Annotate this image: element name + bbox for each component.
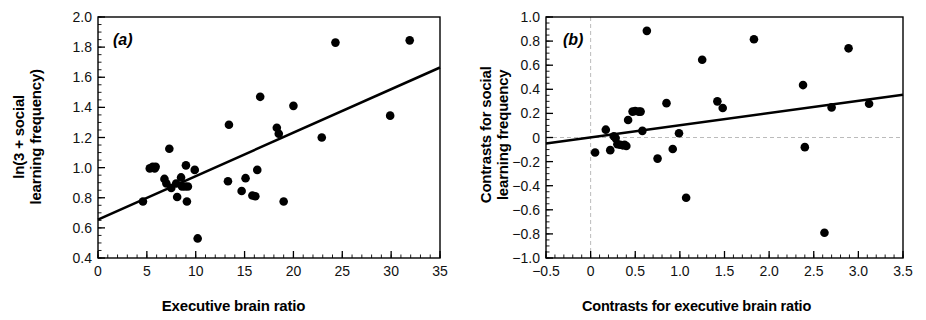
minor-ticks: [98, 17, 440, 258]
data-point: [865, 99, 874, 108]
panel-b-y-axis-title-line1: Contrasts for social: [478, 45, 495, 225]
data-point: [801, 143, 810, 152]
data-point: [662, 99, 671, 108]
data-point: [820, 228, 829, 237]
data-point: [237, 187, 246, 196]
x-tick-label: 3.5: [893, 263, 912, 279]
panel-b-scatter: (b) Contrasts for executive brain ratio …: [463, 0, 926, 320]
data-point: [184, 182, 193, 191]
data-point: [139, 197, 148, 206]
major-ticks: [98, 17, 440, 258]
data-point: [251, 192, 260, 201]
data-point: [591, 148, 600, 157]
regression-line: [546, 95, 903, 144]
y-tick-label: 0.6: [502, 57, 540, 73]
data-point: [643, 27, 652, 36]
x-tick-label: 2.5: [804, 263, 823, 279]
data-point: [675, 129, 684, 138]
data-point: [601, 125, 610, 134]
data-point: [750, 35, 759, 44]
panel-a-y-axis-title: ln(3 + social learning frequency): [11, 47, 45, 227]
data-point: [331, 38, 340, 47]
data-point: [177, 173, 186, 182]
data-point: [622, 142, 631, 151]
y-tick-label: 1.2: [54, 130, 92, 146]
data-point: [668, 145, 677, 154]
data-point: [165, 144, 174, 153]
data-point: [279, 197, 288, 206]
y-tick-label: 0.2: [502, 105, 540, 121]
data-point: [190, 166, 199, 175]
panel-b-label: (b): [563, 31, 583, 49]
data-point: [638, 127, 647, 136]
data-point: [274, 129, 283, 138]
x-tick-label: 1.5: [715, 263, 734, 279]
x-tick-label: 2.0: [759, 263, 778, 279]
panel-a-y-axis-title-line1: ln(3 + social: [11, 47, 28, 227]
x-tick-label: 3.0: [849, 263, 868, 279]
data-point: [405, 36, 414, 45]
y-tick-label: −0.6: [502, 202, 540, 218]
y-tick-label: −0.8: [502, 226, 540, 242]
y-tick-label: 1.6: [54, 69, 92, 85]
y-tick-label: 1.4: [54, 99, 92, 115]
data-point: [844, 44, 853, 53]
data-point: [606, 146, 615, 155]
panel-a-label: (a): [113, 31, 133, 49]
x-tick-label: 1.0: [670, 263, 689, 279]
data-point: [225, 120, 234, 129]
data-point: [636, 107, 645, 116]
data-point: [718, 104, 727, 113]
data-point: [682, 193, 691, 202]
plot-frame: [98, 17, 440, 258]
x-tick-label: 10: [188, 263, 204, 279]
x-tick-label: 0.5: [626, 263, 645, 279]
data-point: [253, 166, 262, 175]
panel-b-x-axis-title: Contrasts for executive brain ratio: [465, 298, 926, 314]
y-tick-label: 0: [502, 130, 540, 146]
x-tick-label: 0: [587, 263, 595, 279]
data-point: [698, 55, 707, 64]
y-tick-label: 1.0: [54, 160, 92, 176]
y-tick-label: 0.4: [54, 250, 92, 266]
data-point: [151, 163, 160, 172]
panel-a-y-axis-title-line2: learning frequency): [28, 47, 45, 227]
data-point: [799, 81, 808, 90]
data-point: [713, 97, 722, 106]
y-tick-label: 0.8: [502, 33, 540, 49]
data-point: [289, 102, 298, 111]
y-tick-label: −1.0: [502, 250, 540, 266]
regression-line: [98, 67, 440, 219]
data-point: [241, 174, 250, 183]
panel-a-x-axis-title: Executive brain ratio: [2, 297, 465, 314]
data-point: [653, 154, 662, 163]
y-tick-label: 1.0: [502, 9, 540, 25]
x-tick-label: 20: [286, 263, 302, 279]
x-tick-label: 5: [143, 263, 151, 279]
data-point: [256, 93, 265, 102]
data-point: [182, 161, 191, 170]
y-tick-label: 0.8: [54, 190, 92, 206]
data-point: [827, 103, 836, 112]
x-tick-label: 0: [94, 263, 102, 279]
x-tick-label: 15: [237, 263, 253, 279]
data-point: [317, 133, 326, 142]
x-tick-label: 30: [383, 263, 399, 279]
panel-a-scatter: (a) Executive brain ratio ln(3 + social …: [0, 0, 463, 320]
y-tick-label: 1.8: [54, 39, 92, 55]
y-tick-label: −0.2: [502, 154, 540, 170]
data-point: [224, 177, 233, 186]
data-point: [624, 116, 633, 125]
data-point: [183, 197, 192, 206]
data-point: [386, 111, 395, 120]
y-tick-label: 0.6: [54, 220, 92, 236]
y-tick-label: 2.0: [54, 9, 92, 25]
x-tick-label: 35: [432, 263, 448, 279]
y-tick-label: 0.4: [502, 81, 540, 97]
data-point: [193, 234, 202, 243]
x-tick-label: 25: [334, 263, 350, 279]
figure-container: (a) Executive brain ratio ln(3 + social …: [0, 0, 926, 320]
data-point: [173, 193, 182, 202]
y-tick-label: −0.4: [502, 178, 540, 194]
